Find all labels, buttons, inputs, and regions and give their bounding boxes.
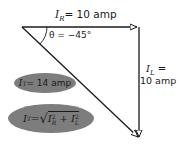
theta-label: θ = −45° bbox=[49, 31, 91, 40]
il-value: 10 amp bbox=[140, 76, 176, 86]
it-value-badge: IT= 14 amp bbox=[14, 73, 76, 93]
it-formula-badge: IT = √I2R + I2L bbox=[8, 104, 94, 133]
ir-label: IR= 10 amp bbox=[55, 9, 117, 23]
theta-arc bbox=[40, 27, 47, 44]
